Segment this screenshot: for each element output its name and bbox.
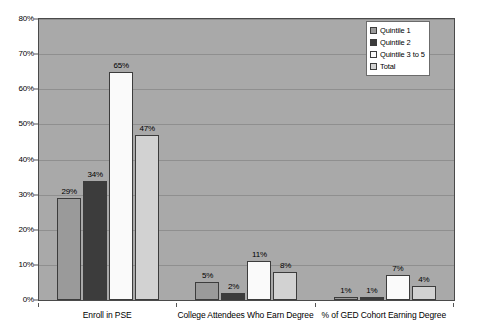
y-axis-tick-label: 10% [19,261,34,269]
bar-value-label: 34% [79,171,111,179]
bar [135,135,159,300]
bar [247,261,271,300]
legend-swatch-icon [370,27,377,34]
y-axis: 0%10%20%30%40%50%60%70%80% [0,18,34,301]
y-axis-tick-label: 30% [19,191,34,199]
legend-item-label: Quintile 2 [380,39,411,47]
x-axis-category-label: Enroll in PSE [83,311,132,320]
bar [273,272,297,300]
x-axis-tick-mark [176,303,177,307]
x-axis-tick-mark [315,303,316,307]
x-axis-category-label: % of GED Cohort Earning Degree [322,311,447,320]
bar [83,181,107,300]
bar-value-label: 2% [217,283,249,291]
legend-item[interactable]: Quintile 3 to 5 [370,49,425,60]
x-axis-category-labels: Enroll in PSECollege Attendees Who Earn … [38,303,455,323]
bar [360,297,384,301]
x-axis-category-label: College Attendees Who Earn Degree [177,311,313,320]
bar-value-label: 65% [105,62,137,70]
bar-value-label: 5% [191,272,223,280]
y-axis-tick-label: 20% [19,226,34,234]
legend-item[interactable]: Quintile 1 [370,25,425,36]
chart-legend: Quintile 1Quintile 2Quintile 3 to 5Total [366,21,430,76]
bar-value-label: 4% [408,276,440,284]
legend-item-label: Total [380,63,395,71]
bar [334,297,358,301]
x-axis-tick-mark [453,303,454,307]
bar-value-label: 47% [131,125,163,133]
y-axis-tick-label: 80% [19,15,34,23]
legend-item[interactable]: Quintile 2 [370,37,425,48]
bar-group: 5%2%11%8% [177,19,315,300]
y-axis-tick-label: 0% [23,296,34,304]
bar [57,198,81,300]
bar-value-label: 11% [243,251,275,259]
bar-chart: 0%10%20%30%40%50%60%70%80% 29%34%65%47%5… [0,0,481,336]
bar-value-label: 7% [382,265,414,273]
legend-swatch-icon [370,63,377,70]
legend-item-label: Quintile 3 to 5 [380,51,425,59]
legend-item[interactable]: Total [370,61,425,72]
y-axis-tick-label: 70% [19,50,34,58]
y-axis-tick-label: 40% [19,156,34,164]
bar-value-label: 8% [269,262,301,270]
bar [195,282,219,300]
bar [221,293,245,300]
bar [412,286,436,300]
legend-swatch-icon [370,51,377,58]
bar [109,72,133,300]
y-axis-tick-label: 50% [19,120,34,128]
legend-swatch-icon [370,39,377,46]
bar-value-label: 1% [356,287,388,295]
bar-value-label: 29% [53,188,85,196]
y-axis-tick-label: 60% [19,85,34,93]
x-axis-tick-mark [38,303,39,307]
bar [386,275,410,300]
bar-group: 29%34%65%47% [39,19,177,300]
legend-item-label: Quintile 1 [380,27,411,35]
